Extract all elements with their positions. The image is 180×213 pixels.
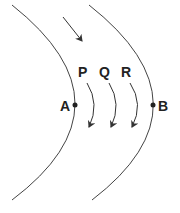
label-p: P [78, 65, 87, 79]
label-b: B [158, 99, 168, 113]
point-b-dot [151, 103, 156, 108]
flow-arrow-top [63, 17, 82, 41]
right-curve [89, 5, 153, 200]
diagram-canvas [0, 0, 180, 213]
label-r: R [121, 65, 131, 79]
arrow-r [130, 83, 138, 127]
arrow-p [87, 83, 94, 127]
diagram: P Q R A B [0, 0, 180, 213]
label-q: Q [99, 65, 110, 79]
point-a-dot [73, 103, 78, 108]
label-a: A [60, 99, 70, 113]
arrow-q [109, 83, 116, 127]
